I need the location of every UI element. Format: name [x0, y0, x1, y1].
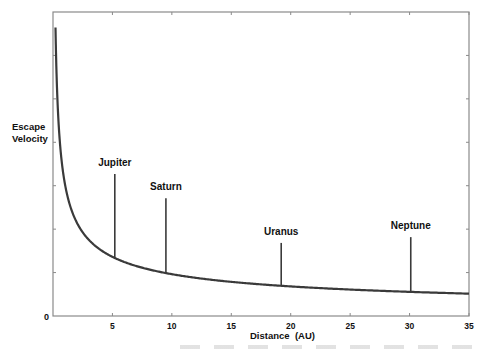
y-axis-label-line1: Escape: [12, 121, 45, 132]
planet-label: Neptune: [391, 220, 431, 231]
x-tick-label: 35: [464, 321, 474, 331]
planet-spikes: JupiterSaturnUranusNeptune: [98, 157, 431, 292]
planet-label: Jupiter: [98, 157, 131, 168]
cropped-caption-artifact: [180, 345, 480, 349]
y-axis-label-line2: Velocity: [12, 133, 49, 144]
x-tick-label: 25: [345, 321, 355, 331]
planet-label: Saturn: [150, 181, 182, 192]
x-axis-label: Distance (AU): [250, 330, 315, 341]
x-tick-label: 10: [167, 321, 177, 331]
x-tick-label: 15: [227, 321, 237, 331]
planet-label: Uranus: [264, 226, 299, 237]
origin-label: 0: [44, 312, 49, 322]
x-tick-label: 30: [405, 321, 415, 331]
x-tick-label: 5: [110, 321, 115, 331]
escape-velocity-chart: JupiterSaturnUranusNeptune Escape Veloci…: [0, 0, 485, 354]
